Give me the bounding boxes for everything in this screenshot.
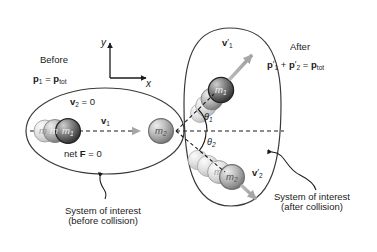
after-v1-prime-arrow <box>229 55 252 80</box>
before-p1-symbol: p <box>33 73 39 84</box>
before-title: Before <box>40 55 68 65</box>
after-ball-m2-ghost-label: m <box>214 167 222 177</box>
before-v1-label: v1 <box>101 116 110 126</box>
before-net-force-label: net F = 0 <box>64 149 102 159</box>
after-plus-sign: + <box>281 59 287 70</box>
after-p2-sub: 2 <box>297 64 301 71</box>
axis-label-y: y <box>101 37 106 48</box>
before-ptot-sub: tot <box>59 78 66 85</box>
before-v2-sub: 2 <box>75 101 79 108</box>
theta2-label: θ2 <box>207 138 216 148</box>
after-p1-symbol: p <box>267 59 273 70</box>
before-caption: System of interest (before collision) <box>17 206 189 227</box>
after-eq-sign: = <box>303 59 309 70</box>
before-eq-sign: = <box>45 73 51 84</box>
after-p1-sub: 1 <box>275 64 279 71</box>
theta2-sub: 2 <box>212 141 216 148</box>
before-v2-value: = 0 <box>82 96 95 107</box>
theta1-label: θ1 <box>204 113 213 123</box>
net-force-prefix: net <box>64 148 80 159</box>
coordinate-axes <box>110 43 146 78</box>
before-v2-label: v2 = 0 <box>70 97 95 107</box>
theta1-sub: 1 <box>209 116 213 123</box>
after-v2-sub: 2 <box>259 172 263 179</box>
after-momentum-equation: p′1 + p′2 = ptot <box>267 60 324 71</box>
after-title: After <box>290 42 310 52</box>
after-ball-m2-label: m2 <box>226 172 238 182</box>
after-ptot-symbol: p <box>311 59 317 70</box>
before-ball-m1-label: m1 <box>62 126 74 136</box>
after-ptot-sub: tot <box>317 64 324 71</box>
before-p1-sub: 1 <box>39 78 43 85</box>
after-caption: System of interest (after collision) <box>248 192 376 213</box>
after-v1-prime-label: v′1 <box>222 38 233 49</box>
net-force-value: = 0 <box>86 148 102 159</box>
physics-collision-figure: y x Before p1 = ptot v2 = 0 v1 net F = 0… <box>0 0 377 252</box>
after-p2-symbol: p <box>289 59 295 70</box>
before-caption-line2: (before collision) <box>17 216 189 226</box>
after-v2-prime-label: v′2 <box>252 168 263 179</box>
before-momentum-equation: p1 = ptot <box>33 74 66 84</box>
before-ball-m1-ghost-label: m <box>50 126 58 136</box>
before-ball-m2-label: m2 <box>155 126 167 136</box>
axis-label-x: x <box>146 78 151 89</box>
after-caption-leader <box>272 152 316 190</box>
before-caption-leader <box>100 177 106 199</box>
after-ball-m1-label: m1 <box>215 85 227 95</box>
before-v1-sub: 1 <box>106 120 110 127</box>
after-v1-sub: 1 <box>229 42 233 49</box>
before-ball-m1-ghost2-label: m <box>39 126 47 136</box>
theta2-arc <box>199 131 206 151</box>
after-caption-line2: (after collision) <box>248 202 376 212</box>
